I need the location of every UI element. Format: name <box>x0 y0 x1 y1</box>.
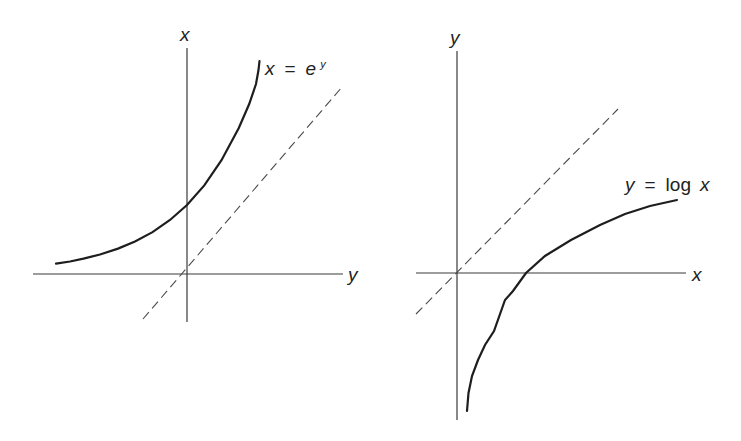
left-horizontal-axis-label: y <box>346 264 359 285</box>
log-label-var: x <box>699 174 711 195</box>
exp-label-superscript: y <box>319 58 327 70</box>
diagram-canvas: x y x = e y y x y = log x <box>0 0 741 441</box>
log-label-fn: log <box>666 174 691 195</box>
right-plot: y x y = log x <box>416 27 711 420</box>
log-label-eq: = <box>645 174 656 195</box>
right-horizontal-axis-label: x <box>691 264 703 285</box>
exp-label-lhs: x <box>264 58 276 79</box>
exp-label-base: e <box>306 58 317 79</box>
left-vertical-axis-label: x <box>179 24 191 45</box>
exp-curve-label: x = e y <box>264 58 327 79</box>
right-identity-line <box>416 109 618 314</box>
log-curve <box>467 200 677 411</box>
exp-label-eq: = <box>285 58 296 79</box>
exp-curve <box>56 61 260 264</box>
log-label-lhs: y <box>623 174 636 195</box>
right-vertical-axis-label: y <box>448 27 461 48</box>
log-curve-label: y = log x <box>623 174 711 195</box>
left-plot: x y x = e y <box>33 24 359 322</box>
